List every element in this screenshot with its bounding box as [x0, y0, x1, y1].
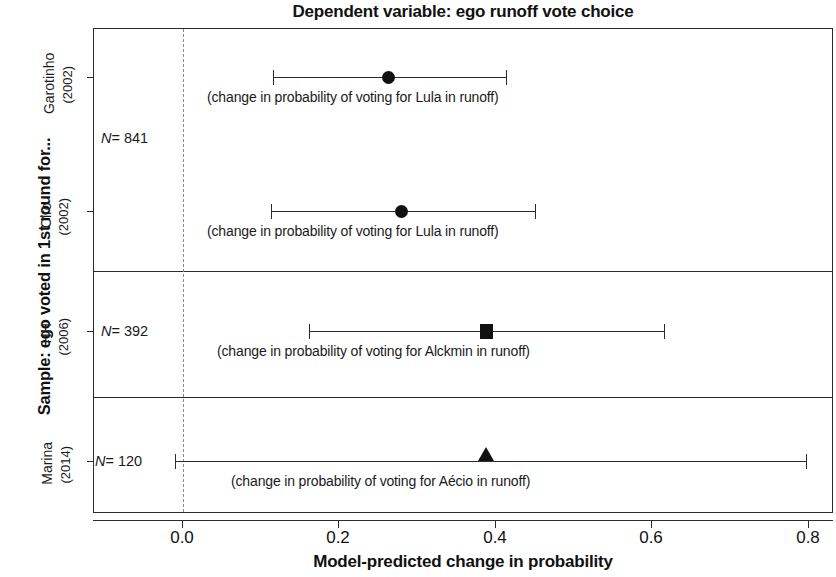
x-axis-line [93, 520, 833, 521]
annotation-hh: (change in probability of voting for Alc… [217, 343, 530, 359]
facet-divider-1 [94, 271, 832, 272]
y-tick-garotinho [87, 77, 94, 78]
x-tick-4 [808, 520, 809, 528]
y-tick-marina [87, 461, 94, 462]
chart-title: Dependent variable: ego runoff vote choi… [93, 2, 833, 22]
x-tick-label-3: 0.6 [639, 528, 663, 548]
y-tick-ciro [87, 211, 94, 212]
annotation-garotinho: (change in probability of voting for Lul… [207, 89, 499, 105]
ci-cap-low-hh [309, 324, 310, 339]
sample-size-group3-val: = 120 [105, 453, 142, 469]
chart-figure: Dependent variable: ego runoff vote choi… [0, 0, 836, 577]
annotation-ciro: (change in probability of voting for Lul… [207, 223, 499, 239]
sample-size-group2-val: = 392 [111, 323, 148, 339]
row-label-garotinho-year-wrap: (2002) [61, 33, 75, 137]
sample-size-group3: N= 120 [95, 453, 142, 469]
row-label-ciro-name: Ciro [39, 179, 54, 251]
estimate-marker-ciro [395, 205, 408, 218]
x-tick-1 [338, 520, 339, 528]
row-label-marina-year: (2014) [59, 423, 73, 507]
ci-cap-high-marina [806, 454, 807, 469]
ci-cap-low-marina [175, 454, 176, 469]
row-label-marina-year-wrap: (2014) [59, 423, 73, 507]
sample-size-group1-val: = 841 [111, 130, 148, 146]
estimate-marker-garotinho [382, 71, 395, 84]
x-tick-3 [651, 520, 652, 528]
sample-size-group2: N= 392 [101, 323, 148, 339]
estimate-marker-marina [478, 447, 494, 461]
sample-size-group3-var: N [95, 453, 105, 469]
plot-panel: (change in probability of voting for Lul… [93, 28, 833, 513]
row-label-ciro: Ciro [39, 179, 54, 251]
ci-cap-low-ciro [271, 204, 272, 219]
x-tick-label-4: 0.8 [796, 528, 820, 548]
row-label-garotinho: Garotinho [42, 31, 57, 135]
x-tick-2 [495, 520, 496, 528]
row-label-marina-name: Marina [40, 421, 55, 505]
row-label-ciro-year: (2002) [57, 181, 71, 253]
row-label-garotinho-name: Garotinho [42, 31, 57, 135]
ci-cap-high-garotinho [506, 70, 507, 85]
row-label-garotinho-year: (2002) [61, 33, 75, 137]
x-tick-label-1: 0.2 [326, 528, 350, 548]
x-axis-title: Model-predicted change in probability [93, 552, 833, 572]
y-tick-hh [87, 331, 94, 332]
x-tick-0 [182, 520, 183, 528]
row-label-marina: Marina [40, 421, 55, 505]
x-tick-label-2: 0.4 [483, 528, 507, 548]
sample-size-group1-var: N [101, 130, 111, 146]
zero-reference-line [183, 29, 184, 512]
ci-line-marina [175, 461, 806, 462]
ci-cap-high-hh [664, 324, 665, 339]
facet-divider-2 [94, 397, 832, 398]
ci-cap-low-garotinho [273, 70, 274, 85]
estimate-marker-hh [480, 324, 493, 339]
sample-size-group1: N= 841 [101, 130, 148, 146]
row-label-hh: HH [39, 299, 54, 367]
ci-cap-high-ciro [535, 204, 536, 219]
row-label-ciro-year-wrap: (2002) [57, 181, 71, 253]
x-tick-label-0: 0.0 [170, 528, 194, 548]
sample-size-group2-var: N [101, 323, 111, 339]
row-label-hh-year: (2006) [57, 303, 71, 371]
annotation-marina: (change in probability of voting for Aéc… [231, 473, 530, 489]
row-label-hh-year-wrap: (2006) [57, 303, 71, 371]
row-label-hh-name: HH [39, 299, 54, 367]
